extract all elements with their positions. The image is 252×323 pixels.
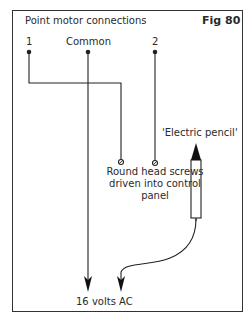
screws-label-line-1: Round head screws — [100, 166, 210, 178]
screws-label-line-3: panel — [100, 190, 210, 202]
wire-terminal-1 — [29, 52, 121, 162]
screw-icons — [119, 160, 158, 166]
terminal-1-dot — [27, 50, 32, 55]
screws-label: Round head screws driven into control pa… — [100, 166, 210, 202]
wiring-diagram — [0, 0, 252, 323]
pencil-label: 'Electric pencil' — [162, 127, 238, 139]
terminal-2-dot — [153, 50, 158, 55]
arrow-icons — [84, 276, 125, 292]
screws-label-line-2: driven into control — [100, 178, 210, 190]
terminal-common-dot — [86, 50, 91, 55]
terminal-dots — [27, 50, 158, 55]
supply-label: 16 volts AC — [76, 296, 133, 308]
wire-pencil — [121, 219, 196, 282]
